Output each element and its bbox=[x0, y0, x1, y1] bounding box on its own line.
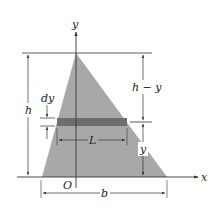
base-label: b bbox=[101, 187, 108, 200]
strip-thickness-label: dy bbox=[41, 92, 55, 105]
horizontal-strip bbox=[57, 118, 127, 126]
origin-label: O bbox=[63, 179, 72, 192]
strip-length-label: L bbox=[88, 134, 96, 147]
triangle-area bbox=[42, 53, 167, 177]
height-label: h bbox=[25, 104, 32, 117]
bottom-segment-label: y bbox=[139, 143, 147, 156]
x-axis-label: x bbox=[201, 171, 208, 184]
top-segment-label: h − y bbox=[132, 81, 162, 94]
y-axis-label: y bbox=[71, 18, 79, 31]
triangle-strip-diagram: y x O h h − y y dy L b bbox=[0, 0, 218, 210]
